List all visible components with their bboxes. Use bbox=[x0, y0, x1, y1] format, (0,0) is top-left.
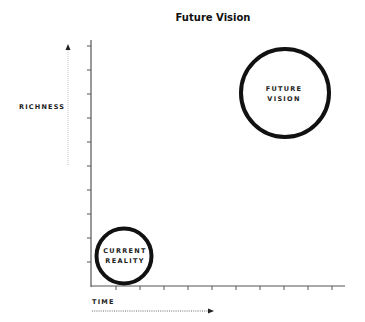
x-axis-label: TIME bbox=[92, 298, 115, 306]
y-axis-label: RICHNESS bbox=[19, 103, 65, 111]
x-axis bbox=[91, 286, 345, 290]
future-vision-label: FUTURE VISION bbox=[255, 84, 313, 104]
time-arrow bbox=[92, 309, 214, 314]
y-axis bbox=[87, 40, 91, 287]
current-reality-line2: REALITY bbox=[96, 256, 154, 266]
current-reality-line1: CURRENT bbox=[96, 246, 154, 256]
current-reality-label: CURRENT REALITY bbox=[96, 246, 154, 266]
richness-arrow bbox=[66, 44, 71, 165]
diagram-canvas bbox=[0, 0, 365, 322]
future-vision-line2: VISION bbox=[255, 94, 313, 104]
future-vision-line1: FUTURE bbox=[255, 84, 313, 94]
